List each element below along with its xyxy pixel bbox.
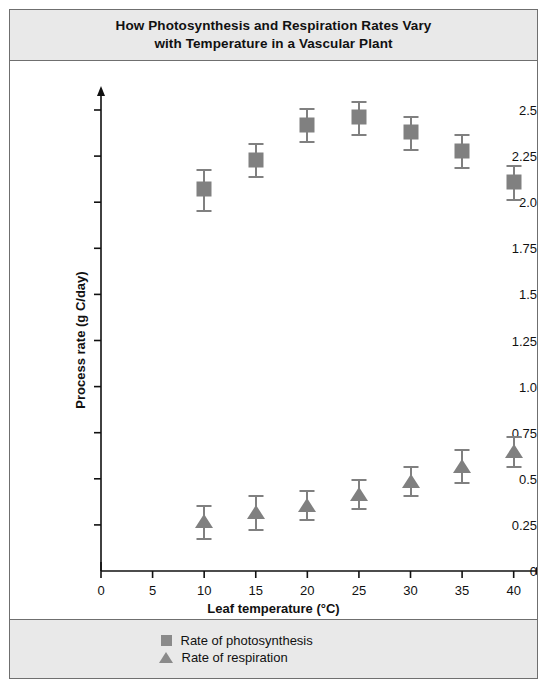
- y-tick-label: 0.25: [458, 517, 537, 532]
- y-tick-label: 2.25: [458, 149, 537, 164]
- error-bar-cap: [248, 143, 263, 145]
- error-bar-cap: [403, 466, 418, 468]
- data-point-respiration: [247, 505, 265, 519]
- error-bar-cap: [403, 149, 418, 151]
- error-bar-cap: [351, 134, 366, 136]
- y-tick-label: 1.0: [458, 379, 537, 394]
- error-bar-cap: [403, 116, 418, 118]
- data-point-photosynthesis: [506, 174, 521, 189]
- data-point-photosynthesis: [351, 110, 366, 125]
- page-title: How Photosynthesis and Respiration Rates…: [116, 17, 432, 53]
- y-tick-label: 1.5: [458, 287, 537, 302]
- error-bar-cap: [506, 199, 521, 201]
- error-bar-cap: [455, 167, 470, 169]
- x-tick-label: 35: [455, 583, 469, 598]
- y-tick-label: 0.75: [458, 425, 537, 440]
- error-bar-cap: [455, 134, 470, 136]
- error-bar-cap: [248, 495, 263, 497]
- plot-canvas: 051015202530354000.250.50.751.01.251.51.…: [10, 61, 537, 619]
- error-bar-cap: [300, 108, 315, 110]
- chart-title-line-1: How Photosynthesis and Respiration Rates…: [116, 18, 432, 33]
- error-bar-cap: [197, 505, 212, 507]
- error-bar-cap: [248, 529, 263, 531]
- error-bar-cap: [197, 210, 212, 212]
- data-point-photosynthesis: [455, 143, 470, 158]
- data-point-respiration: [453, 459, 471, 473]
- x-tick-label: 0: [97, 583, 104, 598]
- data-point-photosynthesis: [197, 182, 212, 197]
- y-tick-label: 1.25: [458, 333, 537, 348]
- x-tick-label: 10: [197, 583, 211, 598]
- square-marker-icon: [161, 635, 172, 646]
- x-tick-label: 30: [403, 583, 417, 598]
- chart-figure: How Photosynthesis and Respiration Rates…: [9, 9, 538, 679]
- x-tick-label: 20: [300, 583, 314, 598]
- y-tick-label: 2.0: [458, 195, 537, 210]
- y-tick-label: 0: [458, 564, 537, 579]
- error-bar-cap: [197, 538, 212, 540]
- y-tick-label: 1.75: [458, 241, 537, 256]
- error-bar-cap: [351, 479, 366, 481]
- data-point-respiration: [402, 474, 420, 488]
- error-bar-cap: [455, 482, 470, 484]
- x-tick-label: 5: [149, 583, 156, 598]
- data-point-respiration: [505, 444, 523, 458]
- legend-item-photosynthesis: Rate of photosynthesis: [159, 633, 389, 648]
- triangle-marker-icon: [159, 652, 173, 663]
- error-bar-cap: [506, 466, 521, 468]
- error-bar-cap: [455, 449, 470, 451]
- chart-legend: Rate of photosynthesis Rate of respirati…: [10, 619, 537, 678]
- data-point-photosynthesis: [403, 125, 418, 140]
- chart-title-line-2: with Temperature in a Vascular Plant: [154, 36, 392, 51]
- error-bar-cap: [351, 101, 366, 103]
- x-tick-label: 25: [352, 583, 366, 598]
- y-tick-label: 2.5: [458, 103, 537, 118]
- legend-item-respiration: Rate of respiration: [159, 650, 389, 665]
- error-bar-cap: [403, 495, 418, 497]
- error-bar-cap: [248, 176, 263, 178]
- error-bar-cap: [351, 508, 366, 510]
- x-tick-label: 40: [506, 583, 520, 598]
- data-point-respiration: [350, 487, 368, 501]
- plot-area: Process rate (g C/day) Leaf temperature …: [10, 61, 537, 619]
- error-bar-cap: [300, 141, 315, 143]
- error-bar-cap: [197, 169, 212, 171]
- chart-title-band: How Photosynthesis and Respiration Rates…: [10, 10, 537, 61]
- data-point-photosynthesis: [300, 117, 315, 132]
- data-point-respiration: [195, 514, 213, 528]
- data-point-photosynthesis: [248, 152, 263, 167]
- y-tick-label: 0.5: [458, 471, 537, 486]
- x-tick-label: 15: [249, 583, 263, 598]
- error-bar-cap: [506, 436, 521, 438]
- data-point-respiration: [298, 498, 316, 512]
- legend-label-respiration: Rate of respiration: [182, 650, 288, 665]
- error-bar-cap: [300, 490, 315, 492]
- legend-label-photosynthesis: Rate of photosynthesis: [181, 633, 313, 648]
- error-bar-cap: [300, 519, 315, 521]
- error-bar-cap: [506, 165, 521, 167]
